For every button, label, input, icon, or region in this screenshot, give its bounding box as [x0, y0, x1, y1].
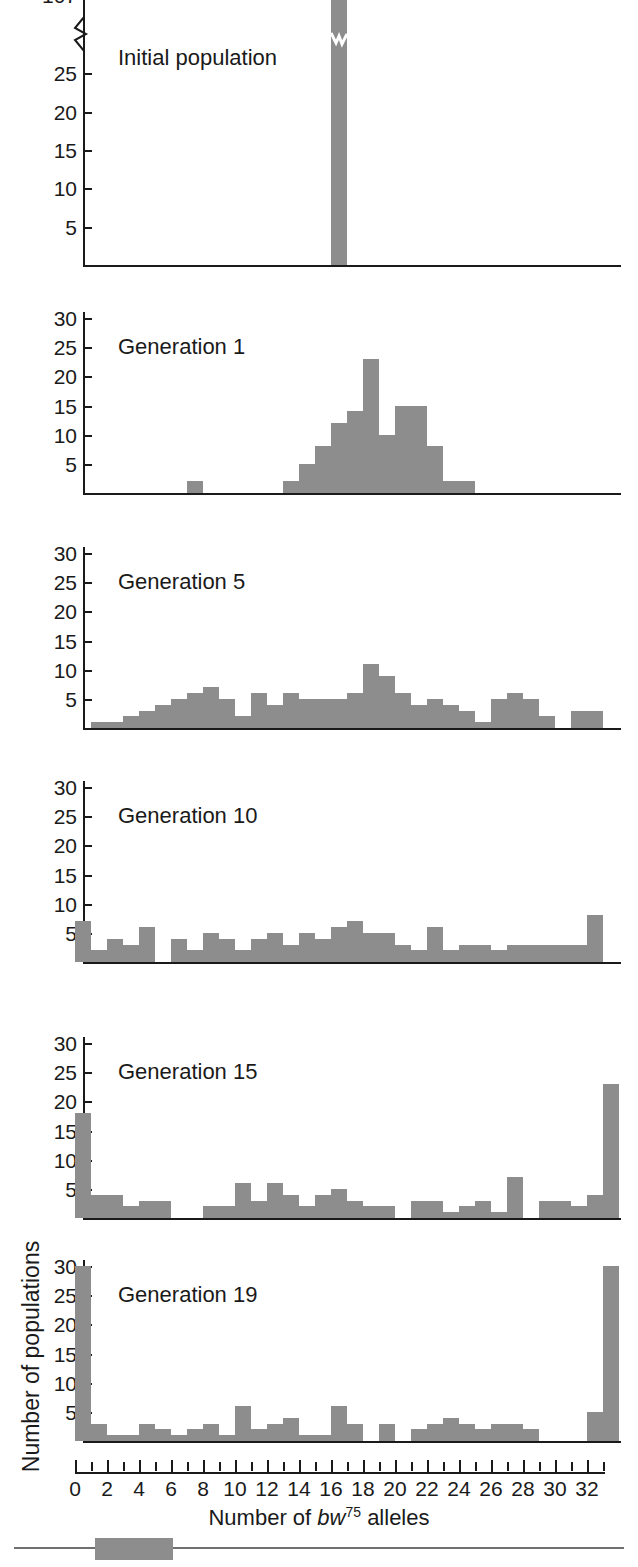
histogram-bar — [379, 1424, 395, 1442]
histogram-bar — [171, 1435, 187, 1441]
y-tick-label: 30 — [15, 543, 77, 564]
y-tick — [85, 464, 92, 466]
histogram-bar — [347, 1424, 363, 1442]
histogram-bar — [299, 699, 315, 728]
y-tick-label: 10 — [15, 1150, 77, 1171]
y-tick — [85, 73, 92, 75]
histogram-bar — [427, 699, 443, 728]
y-tick-label: 15 — [15, 1121, 77, 1142]
y-tick-label: 20 — [15, 601, 77, 622]
x-axis-title: Number of bw75 alleles — [0, 1500, 638, 1530]
histogram-bar — [331, 927, 347, 962]
histogram-bar — [539, 945, 555, 963]
histogram-bar — [539, 1201, 555, 1219]
panel-baseline — [83, 493, 621, 495]
y-tick — [85, 1324, 92, 1326]
histogram-bar — [523, 945, 539, 963]
y-tick — [85, 1160, 92, 1162]
histogram-bar — [123, 1435, 139, 1441]
histogram-bar — [587, 915, 603, 962]
histogram-bar — [427, 446, 443, 493]
histogram-bar — [299, 1435, 315, 1441]
histogram-bar — [107, 722, 123, 728]
y-tick-label: 15 — [15, 631, 77, 652]
histogram-bar — [475, 1201, 491, 1219]
panel-title: Generation 10 — [118, 805, 257, 827]
histogram-bar — [395, 945, 411, 963]
y-tick — [85, 1043, 92, 1045]
histogram-bar — [139, 927, 155, 962]
x-tick-major — [331, 1460, 333, 1472]
histogram-bar — [459, 711, 475, 729]
histogram-bar — [187, 950, 203, 962]
x-tick-label: 32 — [567, 1478, 607, 1499]
y-tick — [85, 1072, 92, 1074]
x-tick-major — [299, 1460, 301, 1472]
histogram-bar — [603, 1266, 619, 1441]
histogram-bar — [91, 1195, 107, 1218]
histogram-bar — [427, 1201, 443, 1219]
x-axis-title-prefix: Number of — [208, 1505, 317, 1530]
histogram-bar — [363, 933, 379, 962]
histogram-bar — [443, 705, 459, 728]
x-tick-major — [587, 1460, 589, 1472]
histogram-bar — [251, 1429, 267, 1441]
panel-baseline — [83, 1441, 621, 1443]
y-tick — [85, 1189, 92, 1191]
x-tick-major — [267, 1460, 269, 1472]
histogram-bar — [171, 939, 187, 962]
y-tick — [85, 1101, 92, 1103]
histogram-bar — [587, 1412, 603, 1441]
y-tick — [85, 1383, 92, 1385]
histogram-bar — [379, 676, 395, 729]
histogram-bar — [155, 705, 171, 728]
histogram-bar — [459, 1424, 475, 1442]
y-tick — [85, 933, 92, 935]
histogram-bar — [235, 716, 251, 728]
x-tick-minor — [219, 1462, 221, 1471]
histogram-bar — [555, 1201, 571, 1219]
histogram-bar — [459, 945, 475, 963]
histogram-bar — [203, 933, 219, 962]
histogram-bar — [123, 716, 139, 728]
histogram-bar — [347, 1201, 363, 1219]
y-tick — [85, 611, 92, 613]
y-tick-label: 5 — [15, 217, 77, 238]
histogram-bar — [283, 945, 299, 963]
histogram-bar — [475, 945, 491, 963]
y-tick — [85, 188, 92, 190]
x-tick-minor — [507, 1462, 509, 1471]
y-tick-label: 20 — [15, 1091, 77, 1112]
y-tick-label: 10 — [15, 425, 77, 446]
histogram-bar — [459, 1206, 475, 1218]
histogram-bar — [523, 1429, 539, 1441]
histogram-bar — [203, 1424, 219, 1442]
histogram-bar — [347, 693, 363, 728]
histogram-bar — [187, 481, 203, 493]
x-tick-minor — [379, 1462, 381, 1471]
x-tick-minor — [539, 1462, 541, 1471]
y-tick-label: 30 — [15, 777, 77, 798]
histogram-bar — [459, 481, 475, 493]
y-tick-label: 25 — [15, 1062, 77, 1083]
x-tick-minor — [475, 1462, 477, 1471]
footer-block — [95, 1538, 173, 1560]
x-tick-major — [203, 1460, 205, 1472]
histogram-bar — [411, 406, 427, 494]
x-tick-minor — [283, 1462, 285, 1471]
histogram-bar — [347, 921, 363, 962]
histogram-bar — [235, 1183, 251, 1218]
histogram-bar — [571, 1206, 587, 1218]
panel-generation-15: 51015202530Generation 15 — [0, 0, 638, 1567]
histogram-bar — [363, 664, 379, 728]
histogram-bar — [75, 1266, 91, 1441]
histogram-bar — [331, 1406, 347, 1441]
histogram-bar — [347, 411, 363, 493]
histogram-bar — [187, 693, 203, 728]
histogram-bar — [379, 1206, 395, 1218]
histogram-bar — [395, 693, 411, 728]
histogram-bar — [107, 939, 123, 962]
y-tick — [85, 150, 92, 152]
panel-title: Generation 15 — [118, 1061, 257, 1083]
histogram-bar — [235, 950, 251, 962]
